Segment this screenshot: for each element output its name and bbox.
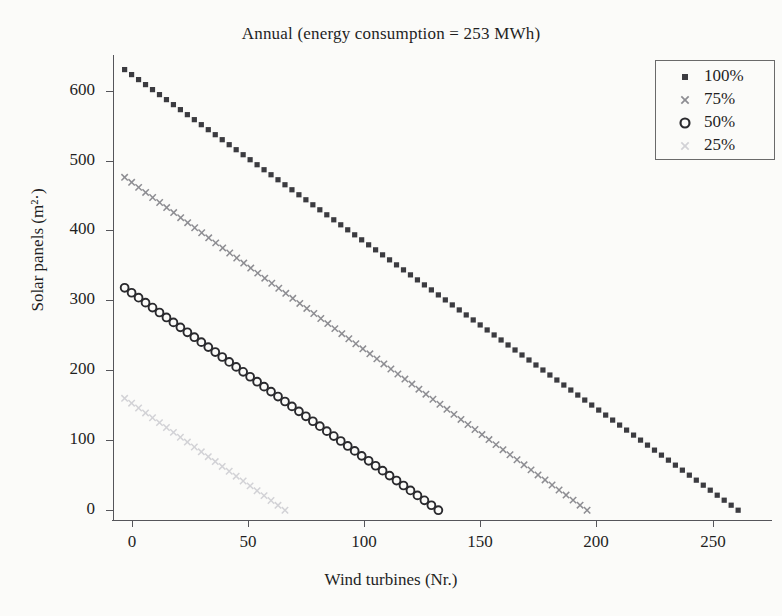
x-axis-tick-label: 100	[334, 532, 394, 552]
y-axis-tick	[106, 510, 113, 511]
x-axis-tick	[713, 520, 714, 527]
x-axis-tick-label: 150	[450, 532, 510, 552]
legend-item-label: 50%	[704, 112, 735, 132]
x-axis-line	[112, 520, 772, 521]
y-axis-tick-label: 300	[35, 289, 95, 309]
y-axis-tick-label: 200	[35, 359, 95, 379]
x-axis-tick	[248, 520, 249, 527]
y-axis-tick-label: 0	[35, 499, 95, 519]
y-axis-tick-label: 600	[35, 80, 95, 100]
legend-item-25pct[interactable]: 25%	[656, 134, 774, 158]
x-axis-tick-label: 250	[683, 532, 743, 552]
series-75pct	[121, 174, 590, 513]
legend-item-75pct[interactable]: 75%	[656, 88, 774, 112]
x-axis-tick	[364, 520, 365, 527]
series-50pct	[121, 284, 443, 514]
y-axis-tick	[106, 161, 113, 162]
x-axis-label: Wind turbines (Nr.)	[0, 570, 782, 590]
circle-marker-icon	[674, 111, 696, 135]
x-axis-tick-label: 50	[218, 532, 278, 552]
chart-figure: Annual (energy consumption = 253 MWh) So…	[0, 0, 782, 616]
x-axis-tick-label: 200	[566, 532, 626, 552]
legend-item-50pct[interactable]: 50%	[656, 111, 774, 135]
legend-item-label: 25%	[704, 135, 735, 155]
series-25pct	[121, 395, 288, 513]
x-axis-tick	[132, 520, 133, 527]
legend-item-label: 75%	[704, 89, 735, 109]
y-axis-tick	[106, 440, 113, 441]
y-axis-tick	[106, 230, 113, 231]
chart-legend: 100%75%50%25%	[655, 60, 775, 160]
x-axis-tick-label: 0	[102, 532, 162, 552]
x-axis-tick	[596, 520, 597, 527]
cross-marker-icon	[674, 134, 696, 158]
legend-item-label: 100%	[704, 66, 744, 86]
y-axis-tick	[106, 370, 113, 371]
y-axis-tick-label: 500	[35, 150, 95, 170]
legend-item-100pct[interactable]: 100%	[656, 65, 774, 89]
square-marker-icon	[674, 65, 696, 89]
y-axis-tick-label: 100	[35, 429, 95, 449]
x-axis-tick	[480, 520, 481, 527]
y-axis-tick	[106, 91, 113, 92]
y-axis-tick-label: 400	[35, 219, 95, 239]
y-axis-tick	[106, 300, 113, 301]
cross-marker-icon	[674, 88, 696, 112]
series-100pct	[122, 67, 741, 513]
chart-title: Annual (energy consumption = 253 MWh)	[0, 24, 782, 44]
